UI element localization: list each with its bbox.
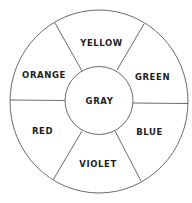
divider-violet-red (53, 131, 82, 180)
segment-label-yellow: YELLOW (80, 38, 123, 47)
center-label-gray: GRAY (86, 96, 114, 105)
segment-label-violet: VIOLET (79, 159, 117, 168)
segment-label-green: GREEN (135, 72, 170, 81)
color-wheel-diagram: YELLOW GREEN BLUE VIOLET RED ORANGE GRAY (0, 0, 192, 203)
segment-label-red: RED (32, 126, 53, 135)
divider-red-orange (10, 100, 65, 101)
segment-label-blue: BLUE (136, 127, 163, 136)
divider-blue-violet (115, 131, 141, 181)
divider-orange-yellow (55, 23, 82, 71)
divider-green-blue (133, 103, 188, 104)
segment-label-orange: ORANGE (22, 70, 66, 79)
